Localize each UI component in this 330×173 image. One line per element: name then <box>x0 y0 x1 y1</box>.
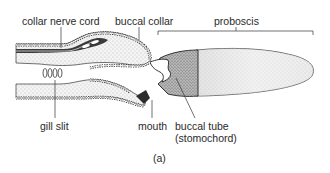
gill-slits <box>43 69 62 78</box>
label-gill-slit: gill slit <box>40 120 69 132</box>
panel-label: (a) <box>153 152 166 164</box>
collar-lower <box>16 80 150 106</box>
buccal-tube-region <box>150 50 198 96</box>
proboscis-bracket <box>158 27 313 35</box>
label-buccal-tube: buccal tube <box>175 120 229 132</box>
label-stomochord: (stomochord) <box>175 132 237 144</box>
collar-upper <box>16 32 150 68</box>
proboscis-shape <box>196 48 313 96</box>
label-buccal-collar: buccal collar <box>115 15 173 27</box>
diagram: collar nerve cord buccal collar probosci… <box>0 0 330 173</box>
label-mouth: mouth <box>138 120 167 132</box>
label-collar-nerve-cord: collar nerve cord <box>22 15 100 27</box>
label-proboscis: proboscis <box>214 15 259 27</box>
